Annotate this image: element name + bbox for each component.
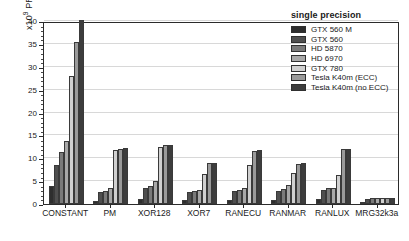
bar (79, 20, 84, 204)
legend-item[interactable]: GTX 560 M (291, 25, 406, 35)
bar-group (222, 23, 267, 204)
x-tick-label: XOR128 (138, 208, 171, 218)
legend-swatch (291, 55, 306, 62)
y-tick-label: 15 (28, 132, 37, 140)
bar-group (89, 23, 134, 204)
legend-item[interactable]: HD 5870 (291, 44, 406, 54)
y-tick-mark (39, 205, 43, 206)
bar (257, 150, 262, 204)
legend-label: HD 5870 (311, 44, 343, 53)
x-tick-label: RANECU (225, 208, 261, 218)
legend-label: Tesla K40m (ECC) (311, 73, 377, 82)
legend-swatch (291, 65, 306, 72)
y-tick-label: 25 (28, 87, 37, 95)
x-tick-label: RANLUX (315, 208, 349, 218)
bar (390, 198, 395, 204)
legend-label: GTX 780 (311, 64, 343, 73)
legend-swatch (291, 26, 306, 33)
bar (212, 163, 217, 204)
bar-group (178, 23, 223, 204)
legend-label: GTX 560 (311, 35, 343, 44)
bar (346, 149, 351, 204)
bar (301, 163, 306, 204)
y-tick-label: 5 (33, 178, 37, 186)
x-tick-mark (377, 205, 378, 208)
y-tick-label: 30 (28, 64, 37, 72)
y-tick-label: 35 (28, 41, 37, 49)
x-tick-label: XOR7 (187, 208, 210, 218)
legend-swatch (291, 36, 306, 43)
legend-items: GTX 560 MGTX 560HD 5870HD 6970GTX 780Tes… (288, 25, 406, 92)
x-tick-mark (199, 205, 200, 208)
legend-item[interactable]: HD 6970 (291, 54, 406, 64)
legend-swatch (291, 84, 306, 91)
x-tick-mark (243, 205, 244, 208)
x-axis-labels: CONSTANTPMXOR128XOR7RANECURANMARRANLUXMR… (43, 208, 399, 228)
legend-item[interactable]: Tesla K40m (ECC) (291, 73, 406, 83)
legend-label: GTX 560 M (311, 25, 352, 34)
chart-container: 0510152025303540 x109 PRNs/sec CONSTANTP… (0, 0, 409, 241)
bar-group (133, 23, 178, 204)
legend-title: single precision (291, 10, 406, 20)
legend-swatch (291, 74, 306, 81)
legend-item[interactable]: Tesla K40m (no ECC) (291, 83, 406, 93)
legend-swatch (291, 45, 306, 52)
x-tick-mark (154, 205, 155, 208)
bar (168, 145, 173, 204)
x-tick-label: RANMAR (269, 208, 306, 218)
y-tick-label: 20 (28, 110, 37, 118)
y-axis-title: x109 PRNs/sec (22, 0, 34, 30)
x-tick-mark (288, 205, 289, 208)
legend-item[interactable]: GTX 780 (291, 63, 406, 73)
x-tick-label: MRG32k3a (355, 208, 398, 218)
y-tick-label: 0 (33, 201, 37, 209)
bar (123, 148, 128, 204)
bar-group (44, 23, 89, 204)
legend: single precision GTX 560 MGTX 560HD 5870… (288, 10, 406, 92)
legend-label: HD 6970 (311, 54, 343, 63)
x-tick-mark (110, 205, 111, 208)
x-tick-label: PM (103, 208, 116, 218)
x-tick-mark (65, 205, 66, 208)
legend-item[interactable]: GTX 560 (291, 35, 406, 45)
x-tick-label: CONSTANT (42, 208, 88, 218)
x-tick-mark (332, 205, 333, 208)
y-tick-label: 10 (28, 155, 37, 163)
y-axis: 0510152025303540 (0, 0, 43, 241)
legend-label: Tesla K40m (no ECC) (311, 83, 388, 92)
